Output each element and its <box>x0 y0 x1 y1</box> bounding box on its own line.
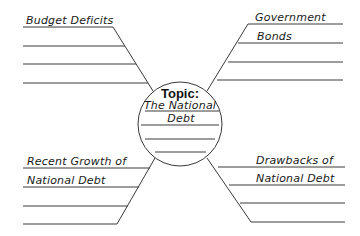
branch-connector <box>207 24 248 91</box>
branch-label-line-2: National Debt <box>27 174 106 187</box>
branch-label-line-1: Government <box>255 11 326 24</box>
topic-circle: Topic: The National Debt <box>138 82 222 166</box>
branch-label-line-2: Bonds <box>257 30 292 43</box>
branch-label-line-1: Recent Growth of <box>27 155 128 168</box>
branch-top-left: Budget Deficits <box>23 14 153 91</box>
branch-bottom-right: Drawbacks of National Debt <box>207 154 345 222</box>
branch-top-right: Government Bonds <box>207 11 343 91</box>
branch-label-line-1: Budget Deficits <box>26 14 113 27</box>
spider-map-diagram: Budget Deficits Government Bonds Recent … <box>0 0 360 236</box>
topic-title-line-2: Debt <box>167 112 195 125</box>
branch-bottom-left: Recent Growth of National Debt <box>23 155 155 224</box>
branch-label-line-1: Drawbacks of <box>256 154 335 167</box>
branch-connector <box>113 27 153 91</box>
topic-title-line-1: The National <box>144 99 216 112</box>
branch-connector <box>207 158 251 222</box>
branch-label-line-2: National Debt <box>256 172 335 185</box>
